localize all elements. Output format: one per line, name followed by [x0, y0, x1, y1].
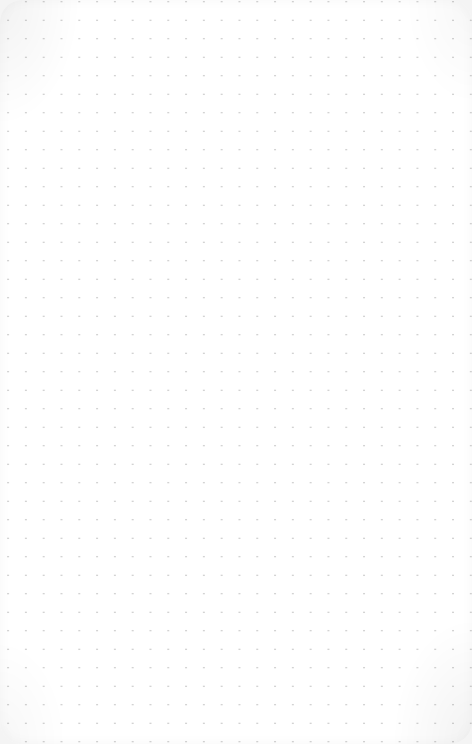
- dot-grid-canvas[interactable]: [0, 0, 472, 744]
